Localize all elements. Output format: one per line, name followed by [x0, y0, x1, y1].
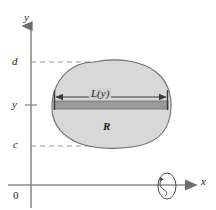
- x-axis-label: x: [201, 176, 206, 187]
- rotation-about-x-axis-icon: [158, 173, 176, 199]
- figure-canvas: [0, 0, 216, 210]
- strip-length-label: L(y): [89, 88, 111, 99]
- tick-label-d: d: [12, 56, 18, 67]
- tick-label-c: c: [13, 139, 18, 150]
- tick-label-y: y: [12, 99, 17, 110]
- y-axis-label: y: [24, 12, 29, 23]
- region-label: R: [103, 121, 110, 132]
- origin-label: 0: [13, 190, 19, 201]
- cross-section-strip: [54, 101, 168, 109]
- math-figure: y x d y c 0 R L(y): [0, 0, 216, 210]
